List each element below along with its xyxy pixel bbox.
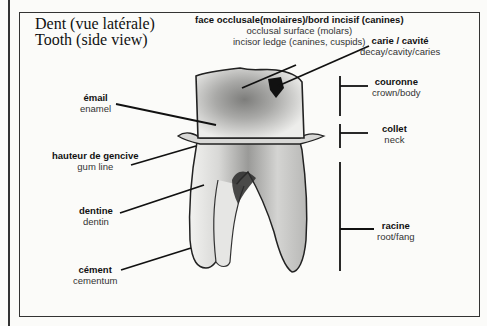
section-brackets <box>340 76 374 271</box>
leader-gumline <box>131 146 196 165</box>
label-neck: collet neck <box>382 123 407 145</box>
leader-cementum <box>121 248 191 270</box>
label-gum-line: hauteur de gencive gum line <box>52 150 139 172</box>
label-caries: carie / cavité decay/cavity/caries <box>360 35 440 57</box>
label-cementum: cément cementum <box>73 264 117 286</box>
tooth-root <box>189 142 306 272</box>
label-root: racine root/fang <box>377 220 415 242</box>
tooth-crown <box>196 68 304 138</box>
label-dentin: dentine dentin <box>79 205 113 227</box>
label-crown: couronne crown/body <box>372 76 421 98</box>
label-enamel: émail enamel <box>80 92 111 114</box>
